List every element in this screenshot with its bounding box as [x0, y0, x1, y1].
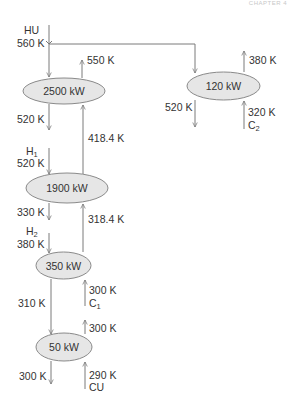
- c2-label: C2: [248, 119, 260, 131]
- c2-inlet-temp: 320 K: [248, 106, 275, 118]
- hx2-duty: 120 kW: [187, 72, 260, 100]
- hx5-duty: 50 kW: [36, 333, 92, 361]
- hx3-cold-in-temp: 318.4 K: [88, 213, 124, 225]
- h1-label: H1: [26, 145, 38, 157]
- cu-label: CU: [89, 381, 104, 393]
- hu-label: HU: [24, 24, 39, 36]
- hx4-hot-out-temp: 310 K: [18, 297, 45, 309]
- hu-branch-line: [49, 44, 195, 73]
- c1-label: C1: [89, 297, 101, 309]
- hx3-duty: 1900 kW: [26, 173, 108, 203]
- h2-label: H2: [26, 225, 38, 237]
- hu-inlet-temp: 560 K: [17, 37, 44, 49]
- hx5-cold-out-temp: 300 K: [89, 322, 116, 334]
- hx3-hot-out-temp: 330 K: [17, 206, 44, 218]
- c1-inlet-temp: 300 K: [89, 284, 116, 296]
- hx1-cold-in-temp: 418.4 K: [88, 132, 124, 144]
- hx1-hot-out-temp: 520 K: [17, 113, 44, 125]
- h2-inlet-temp: 380 K: [17, 238, 44, 250]
- hx2-hot-out-temp: 520 K: [165, 101, 192, 113]
- h1-inlet-temp: 520 K: [17, 157, 44, 169]
- hx5-hot-out-temp: 300 K: [19, 370, 46, 382]
- cu-inlet-temp: 290 K: [89, 369, 116, 381]
- hx4-duty: 350 kW: [36, 252, 91, 279]
- hx1-duty: 2500 kW: [23, 78, 105, 104]
- hx1-cold-out-temp: 550 K: [87, 54, 114, 66]
- hx2-cold-out-temp: 380 K: [249, 54, 276, 66]
